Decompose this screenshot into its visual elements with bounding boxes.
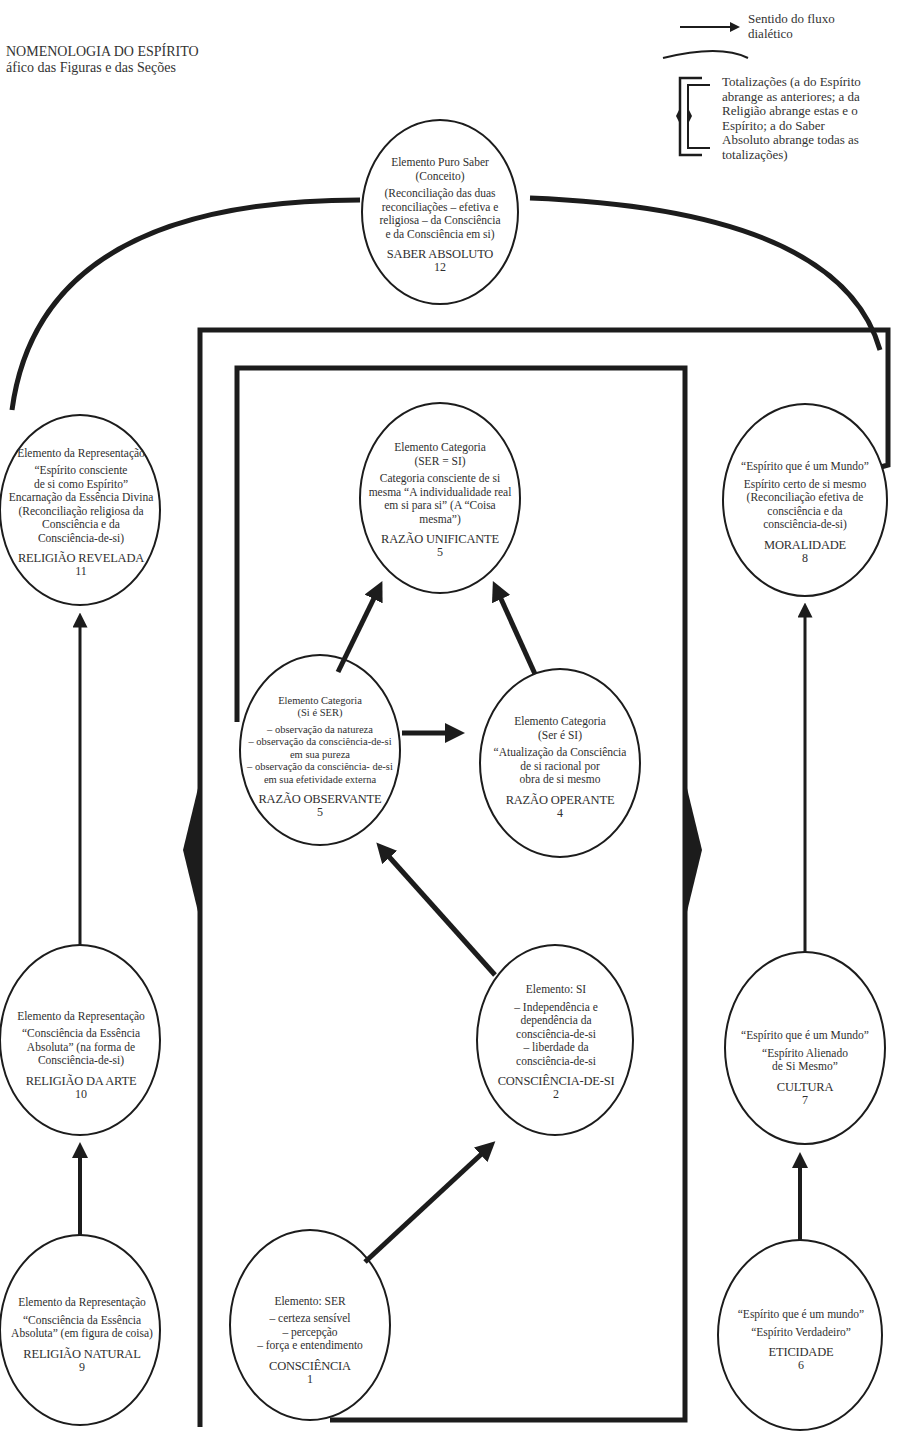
node-element: Elemento Puro Saber (Conceito) <box>391 156 489 183</box>
node-number: 5 <box>437 546 443 559</box>
node-element: “Espírito que é um Mundo” <box>741 460 869 474</box>
legend-bracket-label: Totalizações (a do Espírito abrange as a… <box>722 75 905 162</box>
node-number: 1 <box>307 1373 313 1386</box>
node-razao-observante: Elemento Categoria (Si é SER) – observaç… <box>236 682 404 832</box>
node-razao-unificante: Elemento Categoria (SER = SI) Categoria … <box>358 425 522 575</box>
diagram-title: NOMENOLOGIA DO ESPÍRITO áfico das Figura… <box>6 44 199 76</box>
node-description: “Consciência da Essência Absoluta” (na f… <box>22 1027 140 1068</box>
node-number: 12 <box>434 261 446 274</box>
node-name: RELIGIÃO NATURAL <box>23 1347 140 1361</box>
node-element: Elemento da Representação <box>17 1010 145 1024</box>
node-number: 10 <box>75 1088 87 1101</box>
node-description: (Reconciliação das duas reconciliações –… <box>379 187 500 241</box>
legend-bracket <box>680 78 710 155</box>
arrow-razao-operante-to-razao-unificante <box>497 590 535 674</box>
node-description: “Atualização da Consciência de si racion… <box>494 746 627 787</box>
legend-bracket-line: Absoluto abrange todas as <box>722 133 905 148</box>
node-name: RAZÃO OBSERVANTE <box>258 792 381 806</box>
node-description: “Espírito Alienado de Si Mesmo” <box>762 1047 848 1074</box>
node-element: Elemento Categoria (SER = SI) <box>394 441 486 468</box>
node-number: 2 <box>553 1088 559 1101</box>
node-element: “Espírito que é um Mundo” <box>741 1029 869 1043</box>
node-number: 8 <box>802 552 808 565</box>
node-name: RAZÃO UNIFICANTE <box>381 532 499 546</box>
arrow-consciencia-to-consciencia-de-si <box>365 1148 488 1262</box>
node-cultura: “Espírito que é um Mundo” “Espírito Alie… <box>722 1018 888 1118</box>
node-eticidade: “Espírito que é um mundo” “Espírito Verd… <box>718 1300 884 1380</box>
node-saber-absoluto: Elemento Puro Saber (Conceito) (Reconcil… <box>362 145 518 285</box>
node-element: Elemento Categoria (Ser é SI) <box>514 715 606 742</box>
node-number: 4 <box>557 807 563 820</box>
node-element: Elemento Categoria (Si é SER) <box>278 695 362 720</box>
node-name: CONSCIÊNCIA-DE-SI <box>498 1074 615 1088</box>
node-name: RELIGIÃO DA ARTE <box>26 1074 137 1088</box>
node-razao-operante: Elemento Categoria (Ser é SI) “Atualizaç… <box>478 705 642 830</box>
node-religiao-revelada: Elemento da Representação “Espírito cons… <box>0 425 162 600</box>
node-description: “Consciência da Essência Absoluta” (em f… <box>11 1314 153 1341</box>
title-line-2: áfico das Figuras e das Seções <box>6 60 199 76</box>
node-element: Elemento da Representação <box>17 447 145 461</box>
node-religiao-natural: Elemento da Representação “Consciência d… <box>0 1290 164 1380</box>
node-description: Categoria consciente de si mesma “A indi… <box>369 472 512 526</box>
node-element: “Espírito que é um mundo” <box>738 1308 864 1322</box>
node-name: CONSCIÊNCIA <box>269 1359 351 1373</box>
node-name: CULTURA <box>777 1080 833 1094</box>
node-element: Elemento: SER <box>274 1295 345 1309</box>
node-name: RAZÃO OPERANTE <box>506 793 615 807</box>
node-description: Espírito certo de si mesmo (Reconciliaçã… <box>744 478 867 532</box>
node-name: SABER ABSOLUTO <box>387 247 493 261</box>
node-number: 5 <box>317 806 323 819</box>
legend-bracket-line: Religião abrange estas e o <box>722 104 905 119</box>
legend-bracket-line: totalizações) <box>722 148 905 163</box>
legend-bracket-line: Totalizações (a do Espírito <box>722 75 905 90</box>
legend-arrow-label-line-2: dialético <box>748 27 835 42</box>
legend-arrow-label: Sentido do fluxo dialético <box>748 12 835 41</box>
legend-bracket-line: abrange as anteriores; a da <box>722 90 905 105</box>
node-number: 9 <box>79 1361 85 1374</box>
node-consciencia: Elemento: SER – certeza sensível – perce… <box>232 1285 388 1395</box>
arrow-razao-observante-to-razao-unificante <box>338 590 378 672</box>
node-description: – certeza sensível – percepção – força e… <box>257 1312 363 1353</box>
node-number: 11 <box>75 565 87 578</box>
node-consciencia-de-si: Elemento: SI – Independência e dependênc… <box>478 972 634 1112</box>
node-number: 7 <box>802 1094 808 1107</box>
node-moralidade: “Espírito que é um Mundo” Espírito certo… <box>722 440 888 585</box>
node-description: – observação da natureza – observação da… <box>247 724 393 787</box>
node-name: ETICIDADE <box>769 1345 834 1359</box>
node-name: RELIGIÃO REVELADA <box>18 551 144 565</box>
title-line-1: NOMENOLOGIA DO ESPÍRITO <box>6 44 199 60</box>
node-religiao-da-arte: Elemento da Representação “Consciência d… <box>0 1000 162 1110</box>
saber-absoluto-arc <box>12 200 360 410</box>
legend-arc <box>663 51 748 58</box>
arrow-consciencia-de-si-to-razao-observante <box>383 850 495 975</box>
node-name: MORALIDADE <box>764 538 846 552</box>
node-description: “Espírito consciente de si como Espírito… <box>9 464 154 545</box>
node-element: Elemento: SI <box>526 983 586 997</box>
node-number: 6 <box>798 1359 804 1372</box>
node-description: – Independência e dependência da consciê… <box>514 1001 598 1069</box>
node-description: “Espírito Verdadeiro” <box>751 1326 851 1340</box>
legend-bracket-line: Espírito; a do Saber <box>722 119 905 134</box>
node-element: Elemento da Representação <box>18 1296 146 1310</box>
legend-arrow-label-line-1: Sentido do fluxo <box>748 12 835 27</box>
